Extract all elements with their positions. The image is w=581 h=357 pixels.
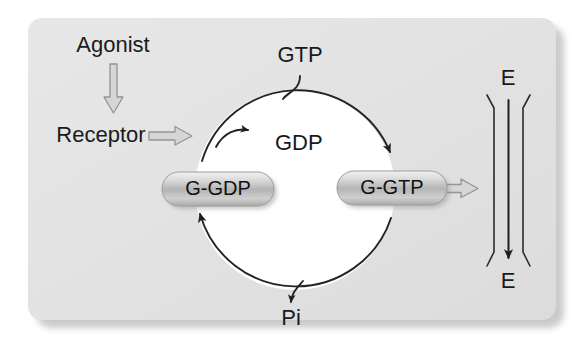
node-g-gdp-label: G-GDP <box>185 177 251 199</box>
label-effector-top: E <box>501 65 516 90</box>
node-g-gtp[interactable]: G-GTP <box>337 171 450 208</box>
node-g-gdp[interactable]: G-GDP <box>162 172 277 209</box>
label-gtp: GTP <box>277 42 322 67</box>
label-receptor: Receptor <box>56 122 145 147</box>
label-gdp: GDP <box>275 130 323 155</box>
figure-root: G-GDP G-GTP Agonist Receptor GTP GDP Pi … <box>0 0 581 357</box>
diagram-canvas: G-GDP G-GTP Agonist Receptor GTP GDP Pi … <box>0 0 581 357</box>
label-pi: Pi <box>281 305 301 330</box>
label-effector-bottom: E <box>501 268 516 293</box>
node-g-gtp-label: G-GTP <box>360 176 423 198</box>
label-agonist: Agonist <box>76 32 149 57</box>
